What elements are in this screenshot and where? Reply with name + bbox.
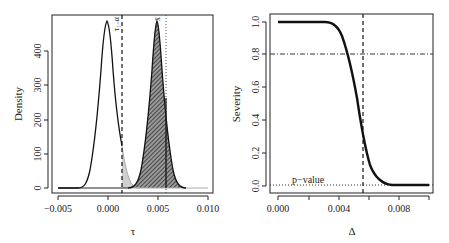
observed-density-area: [128, 21, 186, 188]
density-panel: 0 100 200 300 400 Density −0.005 0.000 0…: [12, 15, 219, 237]
figure: 0 100 200 300 400 Density −0.005 0.000 0…: [0, 0, 449, 243]
density-plot-frame: [52, 15, 213, 193]
severity-curve: [278, 22, 429, 185]
tau-critical-label: τ₁₋α: [112, 16, 121, 31]
density-y-tick-labels: 0 100 200 300 400: [32, 44, 43, 191]
x-tick-label: 0.004: [328, 203, 351, 214]
xbar-label: x̄: [153, 17, 162, 21]
severity-x-tick-labels: 0.000 0.004 0.008: [267, 203, 411, 214]
severity-y-axis-title: Severity: [230, 85, 242, 122]
severity-y-tick-labels: 0.0 0.2 0.4 0.6 0.8 1.0: [250, 16, 261, 193]
y-tick-label: 0.4: [250, 114, 261, 127]
y-tick-label: 200: [32, 113, 43, 128]
severity-x-axis-title: Δ: [348, 225, 355, 237]
severity-y-axis: [262, 22, 266, 186]
severity-x-axis: [278, 196, 429, 200]
y-tick-label: 0.2: [250, 147, 261, 160]
y-tick-label: 400: [32, 44, 43, 59]
y-tick-label: 100: [32, 147, 43, 162]
null-density-curve: [58, 21, 122, 188]
density-x-tick-labels: −0.005 0.000 0.005 0.010: [44, 203, 219, 214]
x-tick-label: 0.005: [147, 203, 170, 214]
density-y-axis: [44, 51, 48, 188]
x-tick-label: 0.010: [197, 203, 220, 214]
y-tick-label: 0.6: [250, 81, 261, 94]
density-y-axis-title: Density: [12, 86, 24, 121]
x-tick-label: 0.008: [388, 203, 411, 214]
y-tick-label: 0: [32, 186, 43, 191]
density-x-axis: [58, 196, 208, 200]
severity-panel: 0.0 0.2 0.4 0.6 0.8 1.0 Severity 0.000 0…: [230, 14, 433, 237]
x-tick-label: 0.000: [97, 203, 120, 214]
x-tick-label: −0.005: [44, 203, 72, 214]
y-tick-label: 0.0: [250, 180, 261, 193]
y-tick-label: 300: [32, 78, 43, 93]
x-tick-label: 0.000: [267, 203, 290, 214]
density-x-axis-title: τ: [131, 225, 136, 237]
y-tick-label: 0.8: [250, 48, 261, 61]
y-tick-label: 1.0: [250, 16, 261, 29]
pvalue-label: p−value: [292, 174, 325, 185]
severity-plot-frame: [270, 14, 433, 193]
